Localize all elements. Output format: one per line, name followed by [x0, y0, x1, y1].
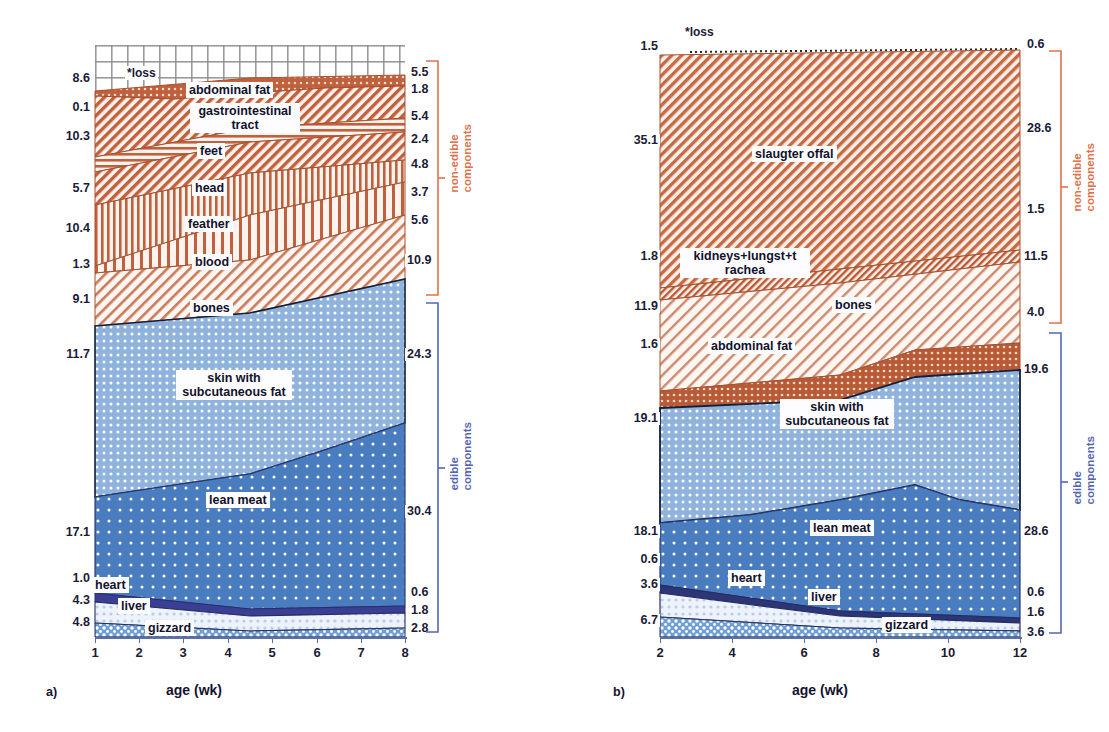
band-label-liver: liver	[118, 598, 150, 614]
value-left-gizzard: 4.8	[50, 616, 92, 629]
chart-a-xtick-1: 1	[91, 645, 98, 660]
band-label-gizzard-b: gizzard	[882, 617, 931, 633]
chart-a-tick	[183, 638, 184, 643]
chart-b-xtick-2: 2	[656, 645, 663, 660]
value-left-bones-b: 11.9	[614, 300, 660, 313]
chart-a-tick	[405, 638, 406, 643]
chart-b-x-axis	[660, 637, 1022, 639]
band-label-abdominal-fat: abdominal fat	[186, 82, 273, 98]
value-left-kidneys: 1.8	[618, 250, 660, 263]
band-label-feather: feather	[185, 216, 233, 232]
band-label-bones: bones	[190, 300, 233, 316]
chart-a-xtick-7: 7	[357, 645, 364, 660]
band-label-liver-b: liver	[808, 589, 840, 605]
chart-b-axis-title: age (wk)	[792, 682, 848, 698]
band-label-skin-b: skin with subcutaneous fat	[780, 399, 894, 429]
band-label-blood: blood	[192, 254, 232, 270]
bracket-edible-a	[424, 300, 446, 635]
band-label-kidneys-lungs-trachea: kidneys+lungst+t rachea	[680, 248, 810, 278]
panel-b: *loss slaugter offal kidneys+lungst+t ra…	[560, 0, 1109, 732]
value-left-abdfat-b: 1.6	[618, 338, 660, 351]
bracket-label-edible-a: edible components	[448, 422, 473, 490]
panel-a-label: a)	[46, 685, 57, 699]
chart-b-xtick-6: 6	[800, 645, 807, 660]
value-left-feather: 10.4	[46, 222, 92, 235]
chart-b-xtick-10: 10	[941, 645, 955, 660]
chart-a-xtick-6: 6	[313, 645, 320, 660]
bracket-non-edible-b	[1047, 48, 1069, 326]
value-right-bones-b: 11.5	[1022, 250, 1050, 263]
band-label-head: head	[192, 180, 227, 196]
chart-b-xtick-12: 12	[1013, 645, 1027, 660]
bracket-label-non-edible-a: non-edible components	[448, 124, 473, 192]
chart-a-axis-title: age (wk)	[166, 682, 222, 698]
panel-b-label: b)	[613, 685, 625, 699]
chart-a-xtick-4: 4	[224, 645, 231, 660]
value-left-bones: 9.1	[50, 293, 92, 306]
value-right-kidneys: 1.5	[1025, 203, 1046, 216]
value-left-git: 10.3	[46, 130, 92, 143]
band-label-lean-meat: lean meat	[206, 492, 270, 508]
value-left-head: 5.7	[50, 182, 92, 195]
value-left-heart: 1.0	[50, 572, 92, 585]
value-right-abdfat-b: 4.0	[1025, 306, 1046, 319]
chart-a-tick	[317, 638, 318, 643]
band-label-skin: skin with subcutaneous fat	[176, 370, 292, 400]
chart-a-xtick-2: 2	[135, 645, 142, 660]
chart-b-tick	[804, 638, 805, 643]
value-left-gizzard-b: 6.7	[618, 614, 660, 627]
panel-a: *loss abdominal fat gastrointestinal tra…	[0, 0, 560, 732]
band-label-heart-b: heart	[728, 570, 765, 586]
value-left-lean-b: 18.1	[614, 525, 660, 538]
band-label-feet: feet	[197, 143, 225, 159]
chart-b-tick	[948, 638, 949, 643]
chart-b-xtick-8: 8	[872, 645, 879, 660]
value-left-abdfat: 0.1	[50, 101, 92, 114]
value-right-liver-b: 1.6	[1025, 606, 1046, 619]
band-label-lean-meat-b: lean meat	[810, 520, 874, 536]
value-right-loss-b: 0.6	[1025, 38, 1046, 51]
band-label-gastrointestinal-tract: gastrointestinal tract	[190, 103, 300, 133]
value-left-liver-b: 3.6	[618, 578, 660, 591]
chart-a-xtick-5: 5	[268, 645, 275, 660]
band-label-heart: heart	[92, 577, 129, 593]
bracket-edible-b	[1047, 330, 1069, 636]
chart-b-tick	[660, 638, 661, 643]
bracket-non-edible-a	[424, 58, 446, 298]
band-label-slaughter-offal: slaugter offal	[752, 146, 837, 162]
chart-a-tick	[139, 638, 140, 643]
band-label-bones-b: bones	[832, 297, 875, 313]
band-label-gizzard: gizzard	[145, 620, 194, 636]
chart-b-tick	[876, 638, 877, 643]
value-left-blood: 1.3	[50, 258, 92, 271]
value-left-offal: 35.1	[614, 134, 660, 147]
bracket-label-edible-b: edible components	[1071, 436, 1096, 504]
value-left-skin: 11.7	[46, 348, 92, 361]
value-right-heart-b: 0.6	[1025, 586, 1046, 599]
chart-b-xtick-4: 4	[728, 645, 735, 660]
value-right-gizzard-b: 3.6	[1025, 626, 1046, 639]
value-left-heart-b: 0.6	[618, 553, 660, 566]
value-left-lean: 17.1	[46, 526, 92, 539]
chart-b-tick	[732, 638, 733, 643]
value-left-loss-b: 1.5	[618, 40, 660, 53]
chart-a-plot-area	[95, 45, 405, 637]
chart-a-loss-label: *loss	[125, 66, 158, 80]
chart-a-tick	[361, 638, 362, 643]
chart-a-xtick-8: 8	[401, 645, 408, 660]
value-left-skin-b: 19.1	[614, 412, 660, 425]
band-label-abdominal-fat-b: abdominal fat	[708, 338, 795, 354]
chart-b-tick	[1020, 638, 1021, 643]
chart-a-xtick-3: 3	[179, 645, 186, 660]
chart-a-tick	[272, 638, 273, 643]
chart-a-tick	[228, 638, 229, 643]
chart-b-loss-label: *loss	[683, 25, 716, 39]
value-left-liver: 4.3	[50, 594, 92, 607]
value-left-loss: 8.6	[50, 72, 92, 85]
chart-a-stacked-area	[95, 45, 405, 637]
bracket-label-non-edible-b: non-edible components	[1071, 143, 1096, 211]
chart-a-tick	[95, 638, 96, 643]
